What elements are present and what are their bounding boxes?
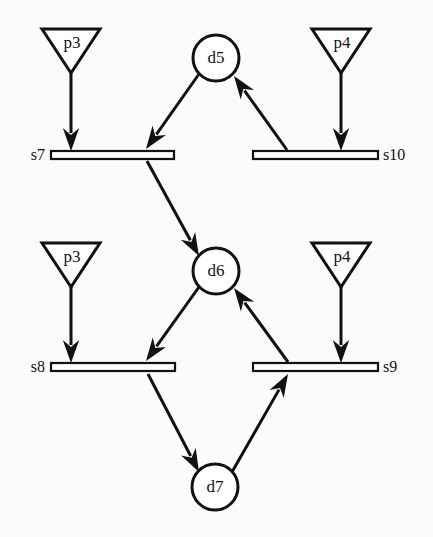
place-label: p3 <box>64 33 81 52</box>
edge-s7-to-d6 <box>147 161 199 256</box>
arrow-head <box>146 338 166 361</box>
transition-bar[interactable] <box>253 363 378 371</box>
edge-d7-to-s9 <box>232 374 288 472</box>
place-p3_bottom[interactable]: p3 <box>42 243 100 287</box>
arrow-head <box>269 374 288 398</box>
edge-line <box>156 74 199 134</box>
edge-line <box>148 374 191 456</box>
transition-s8[interactable]: s8 <box>31 358 175 375</box>
edge-d6-to-s8 <box>146 287 199 361</box>
decisions-layer: d5d6d7 <box>192 35 239 510</box>
transition-bar[interactable] <box>51 363 175 371</box>
decision-label: d5 <box>208 48 225 67</box>
edge-p4_bottom-to-s9 <box>333 287 349 363</box>
arrow-head <box>234 288 254 311</box>
transition-s7[interactable]: s7 <box>31 146 174 163</box>
edge-d5-to-s7 <box>146 74 199 149</box>
edge-line <box>156 287 199 346</box>
decision-label: d6 <box>208 261 225 280</box>
edge-line <box>232 390 279 472</box>
edge-s8-to-d7 <box>148 374 199 472</box>
transition-label: s10 <box>383 146 405 163</box>
arrow-head <box>181 448 199 472</box>
place-label: p4 <box>334 33 352 52</box>
diagram-svg: p3p4p3p4 s7s10s8s9 d5d6d7 <box>0 0 433 537</box>
arrow-head <box>146 125 166 149</box>
diagram-canvas: p3p4p3p4 s7s10s8s9 d5d6d7 <box>0 0 433 537</box>
decision-label: d7 <box>207 477 225 496</box>
edge-p4_top-to-s10 <box>333 73 349 151</box>
place-label: p4 <box>334 247 352 266</box>
place-p3_top[interactable]: p3 <box>42 29 100 73</box>
decision-d6[interactable]: d6 <box>193 248 239 294</box>
decision-d7[interactable]: d7 <box>192 464 238 510</box>
transition-bar[interactable] <box>253 151 378 159</box>
edge-line <box>147 161 190 240</box>
edge-p3_top-to-s7 <box>63 73 79 151</box>
edge-line <box>245 303 288 362</box>
edge-s9-to-d6 <box>234 288 288 362</box>
place-p4_top[interactable]: p4 <box>312 29 370 73</box>
arrow-head <box>234 76 254 99</box>
arrow-head <box>181 232 199 256</box>
edge-p3_bottom-to-s8 <box>63 287 79 363</box>
edge-line <box>244 91 287 150</box>
transition-s10[interactable]: s10 <box>253 146 405 163</box>
transition-bar[interactable] <box>51 151 174 159</box>
decision-d5[interactable]: d5 <box>193 35 239 81</box>
transition-label: s9 <box>383 358 397 375</box>
transition-s9[interactable]: s9 <box>253 358 397 375</box>
edge-s10-to-d5 <box>234 76 287 150</box>
transition-label: s7 <box>31 146 45 163</box>
place-label: p3 <box>64 247 81 266</box>
transition-label: s8 <box>31 358 45 375</box>
place-p4_bottom[interactable]: p4 <box>312 243 370 287</box>
